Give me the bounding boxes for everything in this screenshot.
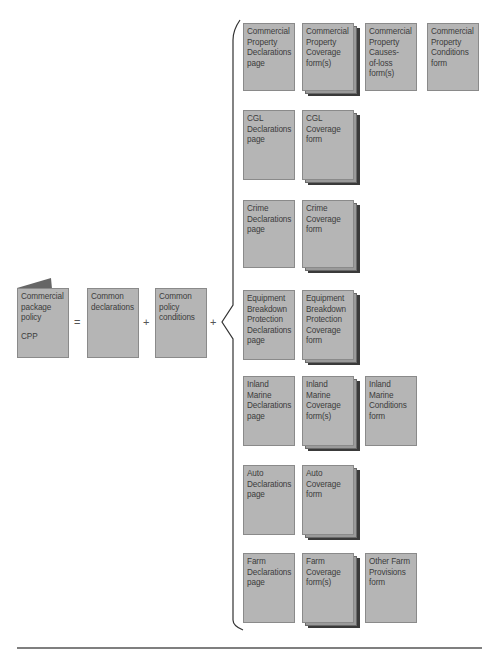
doc-line: Commercial <box>431 27 475 38</box>
doc-line: Protection <box>306 315 350 326</box>
doc-line: Auto <box>247 469 291 480</box>
doc-line: form <box>431 59 475 70</box>
doc-line: Property <box>247 38 291 49</box>
doc-line: Property <box>369 38 413 49</box>
crime-document: CrimeDeclarationspage <box>243 200 295 268</box>
doc-line: Farm <box>247 557 291 568</box>
doc-line: Breakdown <box>306 305 350 316</box>
farm-document: FarmDeclarationspage <box>243 553 295 623</box>
cpp-document: Commercial package policy CPP <box>17 288 69 358</box>
doc-line: Declarations <box>247 326 291 337</box>
doc-line: Provisions <box>369 568 413 579</box>
doc-line: Coverage <box>306 568 350 579</box>
doc-line: Crime <box>306 204 350 215</box>
doc-line: Causes- <box>369 48 413 59</box>
doc-line: form(s) <box>306 59 350 70</box>
doc-line: Common <box>159 292 203 303</box>
doc-line: Marine <box>247 391 291 402</box>
doc-line: form <box>306 225 350 236</box>
doc-line: Declarations <box>247 125 291 136</box>
doc-line: Protection <box>247 315 291 326</box>
inland-marine-document: InlandMarineCoverageform(s) <box>302 376 354 446</box>
doc-line: form <box>369 578 413 589</box>
equipment-breakdown-document: EquipmentBreakdownProtectionCoverageform <box>302 290 354 360</box>
doc-line: Equipment <box>306 294 350 305</box>
doc-line: form <box>306 135 350 146</box>
doc-line: Inland <box>369 380 413 391</box>
doc-line: Declarations <box>247 568 291 579</box>
doc-line: Declarations <box>247 480 291 491</box>
doc-line: Conditions <box>431 48 475 59</box>
doc-line: Coverage <box>306 125 350 136</box>
auto-document: AutoDeclarationspage <box>243 465 295 535</box>
doc-line: Inland <box>306 380 350 391</box>
doc-line: Breakdown <box>247 305 291 316</box>
doc-line: Commercial <box>306 27 350 38</box>
doc-line: form <box>369 412 413 423</box>
doc-line: form(s) <box>306 412 350 423</box>
doc-line: policy <box>159 303 203 314</box>
doc-line: Commercial <box>247 27 291 38</box>
equipment-breakdown-document: EquipmentBreakdownProtectionDeclarations… <box>243 290 295 360</box>
doc-line: page <box>247 225 291 236</box>
doc-line: Declarations <box>247 401 291 412</box>
doc-line: Commercial <box>369 27 413 38</box>
doc-line: page <box>247 412 291 423</box>
plus-sign: + <box>143 316 149 328</box>
doc-line: conditions <box>159 313 203 324</box>
doc-line: Coverage <box>306 480 350 491</box>
common-declarations-document: Common declarations <box>87 288 139 358</box>
doc-line: Marine <box>369 391 413 402</box>
doc-line: page <box>247 135 291 146</box>
equals-sign: = <box>74 316 80 328</box>
doc-line: page <box>247 490 291 501</box>
doc-line: Farm <box>306 557 350 568</box>
plus-sign: + <box>210 316 216 328</box>
common-conditions-document: Common policy conditions <box>155 288 207 358</box>
doc-line: Equipment <box>247 294 291 305</box>
doc-line: Other Farm <box>369 557 413 568</box>
doc-line: Property <box>306 38 350 49</box>
doc-line: Crime <box>247 204 291 215</box>
doc-line: CGL <box>247 114 291 125</box>
doc-line: page <box>247 59 291 70</box>
doc-line: Coverage <box>306 48 350 59</box>
doc-line: page <box>247 336 291 347</box>
doc-line: Marine <box>306 391 350 402</box>
commercial-property-document: CommercialPropertyCauses-of-lossform(s) <box>365 23 417 91</box>
commercial-property-document: CommercialPropertyConditionsform <box>427 23 479 91</box>
doc-line: Coverage <box>306 401 350 412</box>
cgl-document: CGLCoverageform <box>302 110 354 180</box>
doc-line: form <box>306 490 350 501</box>
doc-line: form <box>306 336 350 347</box>
commercial-property-document: CommercialPropertyDeclarationspage <box>243 23 295 91</box>
cpp-line: policy <box>21 313 65 324</box>
inland-marine-document: InlandMarineConditionsform <box>365 376 417 446</box>
doc-line: Common <box>91 292 135 303</box>
doc-line: Coverage <box>306 215 350 226</box>
cgl-document: CGLDeclarationspage <box>243 110 295 180</box>
doc-line: Property <box>431 38 475 49</box>
doc-line: Auto <box>306 469 350 480</box>
farm-document: Other FarmProvisionsform <box>365 553 417 623</box>
doc-line: CGL <box>306 114 350 125</box>
doc-line: of-loss <box>369 59 413 70</box>
doc-line: Conditions <box>369 401 413 412</box>
cpp-line: Commercial <box>21 292 65 303</box>
brace <box>222 20 243 630</box>
doc-line: Declarations <box>247 48 291 59</box>
cpp-abbr: CPP <box>21 332 65 343</box>
inland-marine-document: InlandMarineDeclarationspage <box>243 376 295 446</box>
auto-document: AutoCoverageform <box>302 465 354 535</box>
commercial-property-document: CommercialPropertyCoverageform(s) <box>302 23 354 91</box>
doc-line: declarations <box>91 303 135 314</box>
doc-line: form(s) <box>306 578 350 589</box>
crime-document: CrimeCoverageform <box>302 200 354 268</box>
doc-line: Coverage <box>306 326 350 337</box>
doc-line: Inland <box>247 380 291 391</box>
doc-line: form(s) <box>369 69 413 80</box>
farm-document: FarmCoverageform(s) <box>302 553 354 623</box>
doc-line: page <box>247 578 291 589</box>
cpp-line: package <box>21 303 65 314</box>
doc-line: Declarations <box>247 215 291 226</box>
